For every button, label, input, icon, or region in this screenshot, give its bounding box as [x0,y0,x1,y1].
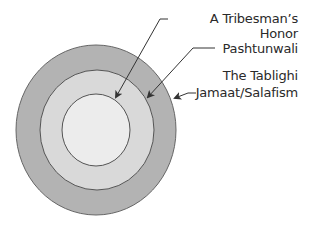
label-outer-layer-line2: Jamaat/Salafism [190,85,298,100]
label-inner-layer: A Tribesman’s Honor [172,11,298,41]
label-outer-layer-line1: The Tablighi [190,68,298,83]
label-middle-layer: Pashtunwali [218,41,298,56]
concentric-circles-diagram: A Tribesman’s Honor Pashtunwali The Tabl… [0,0,311,231]
inner-circle [62,94,130,166]
